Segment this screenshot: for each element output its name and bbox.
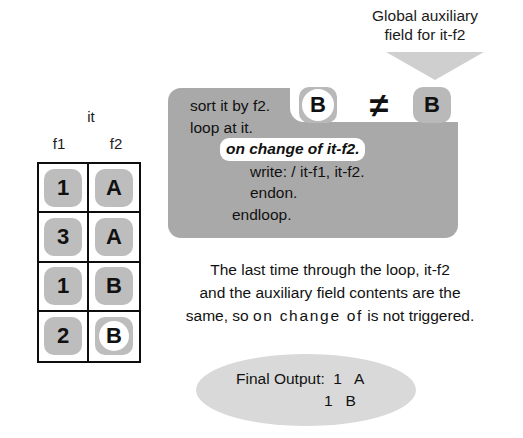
explanation-line-2: and the auxiliary field contents are the xyxy=(140,281,520,304)
explanation-text: The last time through the loop, it-f2 an… xyxy=(140,258,520,327)
cell-chip: B xyxy=(95,267,133,305)
final-output-text: Final Output: 1 A 1 B xyxy=(236,368,416,412)
not-equal-icon: ≠ xyxy=(351,82,407,128)
explanation-keyword-on-change-of: on change of xyxy=(253,307,363,324)
cell-chip: 2 xyxy=(44,317,82,355)
table-row: 1 A xyxy=(39,164,139,213)
cell-value: A xyxy=(106,224,122,250)
table-column-header-f1: f1 xyxy=(43,135,75,152)
cell-chip: A xyxy=(95,218,133,256)
table-cell-f2: A xyxy=(89,213,139,260)
cell-chip: 1 xyxy=(44,267,82,305)
table-row: 3 A xyxy=(39,213,139,262)
table-cell-f2: A xyxy=(89,164,139,211)
table-row: 2 B xyxy=(39,312,139,361)
table-column-header-f2: f2 xyxy=(100,135,132,152)
table-cell-f1: 3 xyxy=(39,213,89,260)
cell-chip: 1 xyxy=(44,169,82,207)
final-output-line-2: 1 B xyxy=(236,390,416,412)
cell-value: B xyxy=(106,273,122,299)
auxiliary-field-value-chip: B xyxy=(299,87,337,123)
table-cell-f2: B xyxy=(89,312,139,361)
on-change-of-highlight: on change of it-f2. xyxy=(220,138,365,161)
code-line-endon: endon. xyxy=(190,182,456,204)
table-title: it xyxy=(78,108,104,125)
cell-value: A xyxy=(106,175,122,201)
table-cell-f1: 2 xyxy=(39,312,89,361)
caption-line-1: Global auxiliary xyxy=(330,6,520,25)
code-line-on-change-of: on change of it-f2. xyxy=(190,138,456,161)
cell-value: B xyxy=(106,323,122,349)
figure-canvas: { "caption": { "line1": "Global auxiliar… xyxy=(0,0,523,438)
cell-value: 2 xyxy=(57,323,69,349)
caption-line-2: field for it-f2 xyxy=(330,25,520,44)
code-line-write: write: / it-f1, it-f2. xyxy=(190,161,456,183)
cell-chip-highlighted: B xyxy=(95,317,133,355)
final-output-line-1: Final Output: 1 A xyxy=(236,368,416,390)
internal-table-it: 1 A 3 A 1 B 2 B xyxy=(37,162,141,363)
table-row: 1 B xyxy=(39,263,139,312)
explanation-line-1: The last time through the loop, it-f2 xyxy=(140,258,520,281)
table-cell-f2: B xyxy=(89,263,139,310)
current-value-text: B xyxy=(424,92,440,117)
cell-value: 1 xyxy=(57,175,69,201)
table-cell-f1: 1 xyxy=(39,263,89,310)
cell-value: 3 xyxy=(57,224,69,250)
caption-global-auxiliary-field: Global auxiliary field for it-f2 xyxy=(330,6,520,44)
cell-chip: 3 xyxy=(44,218,82,256)
code-line-endloop: endloop. xyxy=(190,204,456,226)
down-triangle-arrow-icon xyxy=(386,52,484,80)
explanation-line-3-prefix: same, so xyxy=(186,307,253,324)
current-field-value-chip: B xyxy=(413,87,451,123)
comparison-aux-vs-field: B ≠ B xyxy=(299,86,451,126)
auxiliary-value-text: B xyxy=(299,87,337,123)
explanation-line-3: same, so on change of is not triggered. xyxy=(140,304,520,327)
cell-chip: A xyxy=(95,169,133,207)
cell-value: 1 xyxy=(57,273,69,299)
explanation-line-3-suffix: is not triggered. xyxy=(363,307,474,324)
table-cell-f1: 1 xyxy=(39,164,89,211)
